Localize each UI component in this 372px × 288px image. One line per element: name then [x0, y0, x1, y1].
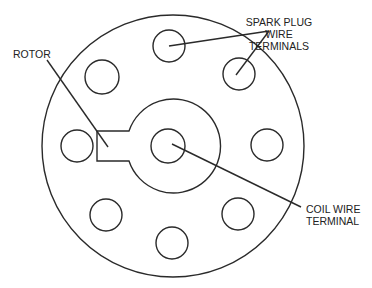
rotor-label: ROTOR: [13, 48, 51, 60]
spark-plug-label-line3: TERMINALS: [249, 40, 309, 52]
spark-plug-terminal-right: [251, 129, 283, 161]
spark-plug-terminal-bottom: [156, 227, 188, 259]
spark-plug-terminal-upper-left: [85, 60, 119, 94]
spark-plug-terminal-upper-right: [223, 58, 255, 90]
spark-plug-label-line1: SPARK PLUG: [246, 16, 312, 28]
spark-plug-terminal-lower-right: [222, 198, 254, 230]
coil-label-line2: TERMINAL: [306, 215, 359, 227]
spark-plug-label-line2: WIRE: [265, 28, 292, 40]
rotor-shape: [97, 99, 221, 193]
coil-wire-terminal: [151, 129, 185, 163]
spark-plug-terminal-left: [61, 130, 93, 162]
distributor-cap-diagram: ROTOR SPARK PLUG WIRE TERMINALS COIL WIR…: [0, 0, 372, 288]
spark-plug-terminal-lower-left: [90, 199, 122, 231]
outer-cap-circle: [42, 15, 304, 277]
spark-plug-leader-line-2: [236, 31, 269, 75]
coil-label-line1: COIL WIRE: [306, 203, 360, 215]
rotor-leader-line: [47, 60, 108, 147]
